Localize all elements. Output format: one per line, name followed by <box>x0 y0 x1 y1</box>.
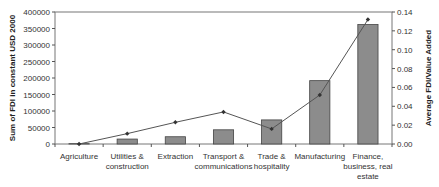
y2-tick-label: 0.14 <box>397 8 413 17</box>
x-category-label: hospitality <box>254 162 290 171</box>
x-category-label: communications <box>195 162 253 171</box>
y-tick-label: 50000 <box>28 124 51 133</box>
bar <box>117 139 137 144</box>
x-category-label: Agriculture <box>60 152 99 161</box>
y-tick-label: 0 <box>46 140 51 149</box>
x-category-label: estate <box>357 172 379 181</box>
x-category-label: construction <box>106 162 149 171</box>
line-marker <box>221 110 225 114</box>
line-marker <box>125 131 129 135</box>
y2-tick-label: 0.04 <box>397 102 413 111</box>
bar <box>213 130 233 144</box>
y-tick-label: 250000 <box>23 58 50 67</box>
x-category-label: Utilities & <box>111 152 145 161</box>
y-tick-label: 200000 <box>23 74 50 83</box>
x-category-label: business, real <box>343 162 393 171</box>
bar <box>165 137 185 144</box>
x-category-label: Extraction <box>158 152 194 161</box>
y-tick-label: 400000 <box>23 8 50 17</box>
x-category-label: Trade & <box>258 152 287 161</box>
line-marker <box>77 142 81 146</box>
y2-axis-title: Average FDI/Value Added <box>424 30 433 126</box>
y2-tick-label: 0.08 <box>397 65 413 74</box>
y2-tick-label: 0.12 <box>397 27 413 36</box>
x-category-label: Transport & <box>203 152 245 161</box>
y-tick-label: 150000 <box>23 91 50 100</box>
bar <box>358 25 378 144</box>
y-tick-label: 300000 <box>23 41 50 50</box>
y2-tick-label: 0.06 <box>397 83 413 92</box>
x-category-label: Finance, <box>353 152 384 161</box>
y-tick-label: 350000 <box>23 25 50 34</box>
y-tick-label: 100000 <box>23 107 50 116</box>
y2-tick-label: 0.00 <box>397 140 413 149</box>
fdi-chart: 0500001000001500002000002500003000003500… <box>0 0 439 187</box>
bar <box>310 81 330 144</box>
x-category-label: Manufacturing <box>294 152 345 161</box>
y2-tick-label: 0.02 <box>397 121 413 130</box>
plot-area <box>55 12 392 144</box>
line-marker <box>173 120 177 124</box>
y2-tick-label: 0.10 <box>397 46 413 55</box>
y-axis-title: Sum of FDI in constant USD 2000 <box>8 14 17 141</box>
